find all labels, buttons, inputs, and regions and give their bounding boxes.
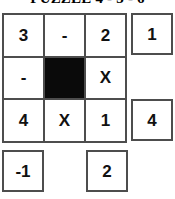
row-answer-value: 4 xyxy=(147,112,156,129)
grid-cell-r2c3[interactable]: X xyxy=(86,58,127,101)
grid-cell-value: X xyxy=(100,69,111,86)
column-answer-value: -1 xyxy=(15,163,30,180)
row-answer-box-1[interactable]: 1 xyxy=(131,13,173,55)
row-answer-value: 1 xyxy=(147,26,156,43)
grid-cell-r3c2[interactable]: X xyxy=(45,100,86,143)
grid-cell-value: 4 xyxy=(19,112,28,129)
grid-cell-value: X xyxy=(59,112,70,129)
grid-cell-value: 2 xyxy=(101,27,110,44)
grid-cell-value: - xyxy=(21,69,27,86)
column-answer-box-3[interactable]: 2 xyxy=(86,150,128,192)
page-title: PUZZLE 4 - 3 - 6 xyxy=(0,0,175,6)
column-answer-box-1[interactable]: -1 xyxy=(2,150,44,192)
grid-cell-value: 3 xyxy=(19,27,28,44)
grid-cell-value: - xyxy=(62,27,68,44)
grid-cell-r1c1[interactable]: 3 xyxy=(4,15,45,58)
grid-cell-r1c3[interactable]: 2 xyxy=(86,15,127,58)
grid-cell-r3c1[interactable]: 4 xyxy=(4,100,45,143)
grid-cell-r2c2-blocked xyxy=(45,58,86,101)
grid-cell-r2c1[interactable]: - xyxy=(4,58,45,101)
column-answer-value: 2 xyxy=(102,163,111,180)
grid-cell-value: 1 xyxy=(101,112,110,129)
grid-cell-r3c3[interactable]: 1 xyxy=(86,100,127,143)
puzzle-grid: 3 - 2 - X 4 X 1 xyxy=(2,13,127,143)
grid-cell-r1c2[interactable]: - xyxy=(45,15,86,58)
row-answer-box-3[interactable]: 4 xyxy=(131,99,173,141)
